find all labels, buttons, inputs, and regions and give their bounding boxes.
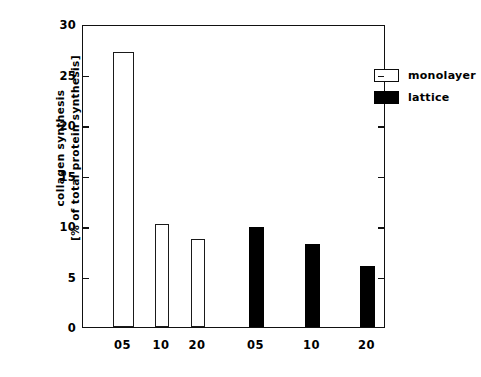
y-axis-tick-label: 5: [50, 271, 76, 285]
y-axis-tick-label: 30: [50, 18, 76, 32]
bar-monolayer-20: [191, 239, 205, 327]
y-axis-tick-right: [378, 177, 384, 178]
y-axis-tick-right: [378, 227, 384, 228]
y-axis-tick-left: [83, 278, 89, 279]
x-axis-tick-label: 05: [247, 338, 264, 352]
y-axis-tick-label: 0: [50, 321, 76, 335]
y-axis-tick-label: 20: [50, 119, 76, 133]
legend-entry-lattice: lattice: [374, 86, 481, 108]
x-axis-tick-label: 05: [114, 338, 131, 352]
y-axis-tick-labels: 302520151050: [48, 25, 76, 328]
y-axis-tick-label: 15: [50, 170, 76, 184]
legend-label-lattice: lattice: [408, 91, 450, 104]
bar-lattice-10: [305, 244, 320, 327]
legend-swatch-filled-icon: [374, 91, 399, 104]
y-axis-tick-right: [378, 126, 384, 127]
bar-monolayer-10: [155, 224, 169, 327]
x-axis-tick-label: 20: [358, 338, 375, 352]
x-axis-tick-label: 10: [303, 338, 320, 352]
plot-area: monolayer lattice: [82, 25, 385, 328]
y-axis-tick-label: 10: [50, 220, 76, 234]
chart-legend: monolayer lattice: [374, 64, 481, 108]
y-axis-tick-left: [83, 227, 89, 228]
x-axis-tick-label: 10: [152, 338, 169, 352]
y-axis-tick-left: [83, 126, 89, 127]
y-axis-tick-right: [378, 76, 384, 77]
bar-monolayer-05: [113, 52, 134, 327]
legend-label-monolayer: monolayer: [408, 69, 476, 82]
legend-entry-monolayer: monolayer: [374, 64, 481, 86]
y-axis-tick-right: [378, 278, 384, 279]
x-axis-tick-label: 20: [188, 338, 205, 352]
bar-lattice-20: [360, 266, 375, 327]
y-axis-tick-left: [83, 177, 89, 178]
bar-lattice-05: [249, 227, 264, 327]
x-axis-tick-labels: 051020051020: [82, 338, 385, 358]
y-axis-tick-label: 25: [50, 69, 76, 83]
y-axis-tick-left: [83, 76, 89, 77]
